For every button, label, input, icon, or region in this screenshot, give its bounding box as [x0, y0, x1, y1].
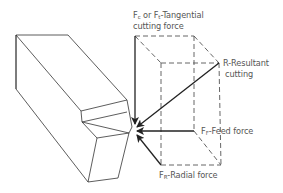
resultant-force-label-line2: cutting [225, 69, 253, 79]
resultant-force-label: R-Resultant [223, 58, 269, 68]
resultant-force-arrow [137, 63, 219, 127]
force-box [135, 36, 221, 165]
feed-force-label: FF-Feed force [201, 126, 253, 138]
radial-force-arrow [137, 135, 161, 165]
cutting-tool [16, 35, 132, 182]
tangential-force-label-line2: cutting force [133, 21, 184, 31]
radial-force-label: FR-Radial force [159, 170, 218, 182]
